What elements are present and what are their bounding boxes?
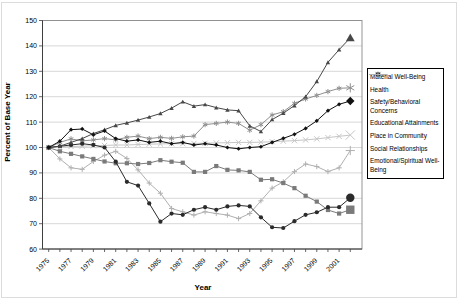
- legend-item-place-in-community: Place in Community: [370, 132, 442, 141]
- x-tick-label: 1999: [303, 257, 319, 273]
- x-tick-label: 1987: [168, 257, 184, 273]
- legend-label: Social Relationships: [370, 145, 428, 154]
- legend-marker-plus-icon: [368, 70, 388, 79]
- legend-label: Health: [370, 86, 388, 95]
- y-tick-label: 120: [25, 93, 37, 100]
- x-tick-label: 1993: [236, 257, 252, 273]
- y-tick-label: 90: [29, 169, 37, 176]
- legend: Material Well-BeingHealthSafety/Behavior…: [367, 68, 444, 179]
- x-tick-label: 1981: [101, 257, 117, 273]
- y-tick-label: 140: [25, 42, 37, 49]
- x-tick-label: 1995: [258, 257, 274, 273]
- x-tick-label: 2001: [325, 257, 341, 273]
- legend-label: Emotional/Spiritual Well-Being: [370, 157, 442, 174]
- legend-item-health: Health: [370, 86, 442, 95]
- x-tick-label: 1991: [213, 257, 229, 273]
- series-safety-behavioral-concerns: [46, 34, 354, 150]
- x-tick-label: 1979: [79, 257, 95, 273]
- series-health: [47, 145, 355, 215]
- y-tick-label: 110: [26, 119, 37, 126]
- series-social-relationships: [47, 142, 355, 231]
- x-tick-label: 1983: [124, 257, 140, 273]
- x-tick-label: 1985: [146, 257, 162, 273]
- x-tick-label: 1989: [191, 257, 207, 273]
- chart-figure: 6070809010011012013014015019751977197919…: [0, 0, 458, 299]
- y-axis-title: Percent of Base Year: [3, 82, 12, 161]
- y-tick-label: 60: [29, 246, 37, 253]
- x-tick-label: 1997: [280, 257, 296, 273]
- legend-label: Educational Attainments: [370, 119, 439, 128]
- y-tick-label: 150: [25, 17, 37, 24]
- y-tick-label: 100: [25, 144, 37, 151]
- y-tick-label: 80: [29, 195, 37, 202]
- x-axis-title: Year: [195, 283, 212, 292]
- x-tick-label: 1975: [34, 257, 50, 273]
- y-tick-label: 70: [29, 220, 37, 227]
- legend-label: Place in Community: [370, 132, 427, 141]
- series-lines: [46, 34, 355, 231]
- y-tick-label: 130: [25, 68, 37, 75]
- series-emotional-spiritual-well-being: [46, 145, 355, 221]
- legend-item-educational-attainments: Educational Attainments: [370, 119, 442, 128]
- legend-item-emotional-spiritual-well-being: Emotional/Spiritual Well-Being: [370, 157, 442, 174]
- legend-item-social-relationships: Social Relationships: [370, 145, 442, 154]
- legend-item-safety-behavioral-concerns: Safety/Behavioral Concerns: [370, 98, 442, 115]
- legend-label: Safety/Behavioral Concerns: [370, 98, 442, 115]
- x-tick-label: 1977: [57, 257, 73, 273]
